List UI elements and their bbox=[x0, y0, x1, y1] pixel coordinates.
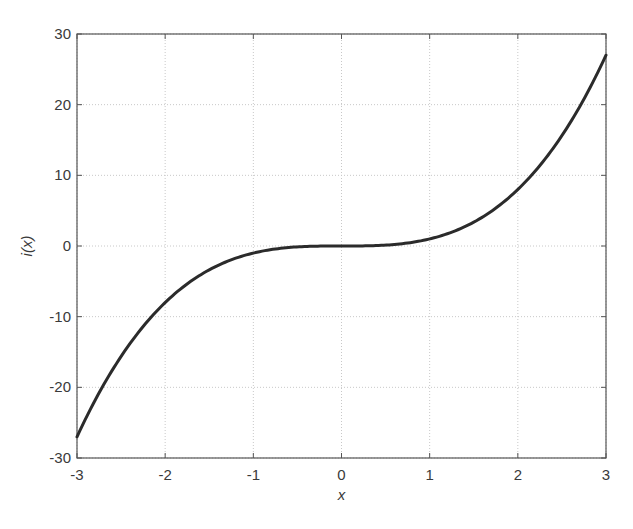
y-tick-label: -10 bbox=[49, 308, 71, 325]
y-tick-label: -20 bbox=[49, 378, 71, 395]
x-tick-label: 3 bbox=[602, 466, 610, 483]
x-tick-label: 1 bbox=[425, 466, 433, 483]
x-tick-label: -3 bbox=[70, 466, 83, 483]
x-tick-label: -2 bbox=[158, 466, 171, 483]
x-tick-label: 0 bbox=[337, 466, 345, 483]
y-tick-labels: -30-20-100102030 bbox=[49, 25, 71, 466]
x-tick-label: 2 bbox=[514, 466, 522, 483]
x-tick-labels: -3-2-10123 bbox=[70, 466, 610, 483]
y-tick-label: 0 bbox=[63, 237, 71, 254]
y-tick-label: 10 bbox=[54, 166, 71, 183]
x-axis-label: x bbox=[337, 486, 346, 503]
line-chart: -3-2-10123 -30-20-100102030 x i(x) bbox=[0, 0, 633, 529]
y-axis-label: i(x) bbox=[18, 236, 35, 257]
y-tick-label: -30 bbox=[49, 449, 71, 466]
y-tick-label: 20 bbox=[54, 96, 71, 113]
y-tick-label: 30 bbox=[54, 25, 71, 42]
x-tick-label: -1 bbox=[247, 466, 260, 483]
